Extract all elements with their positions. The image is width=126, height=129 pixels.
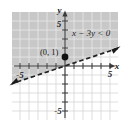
point-coordinate-label: (0, 1) (40, 47, 59, 57)
y-tick-label-neg-5: -5 (54, 106, 62, 116)
y-tick-label-5: 5 (57, 19, 62, 29)
x-tick-label-5: 5 (108, 69, 113, 79)
inequality-label: x − 3y < 0 (71, 28, 111, 38)
plotted-point (62, 54, 69, 61)
inequality-graph: y x -5 5 5 -5 x − 3y < 0 (0, 1) (0, 0, 126, 129)
x-axis-label: x (114, 61, 120, 71)
graph-figure: y x -5 5 5 -5 x − 3y < 0 (0, 1) (0, 0, 126, 129)
x-tick-label-neg-5: -5 (16, 70, 24, 80)
